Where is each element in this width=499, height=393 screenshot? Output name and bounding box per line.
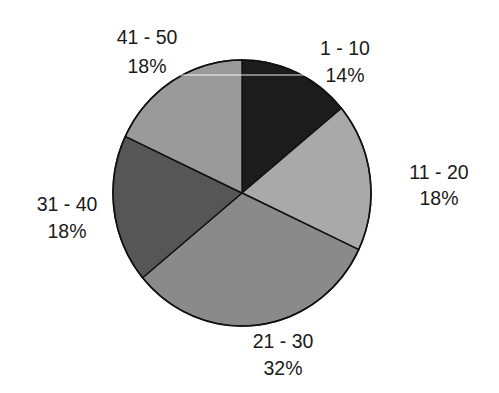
slice-percent-label: 32% bbox=[263, 357, 302, 379]
slice-category-label: 21 - 30 bbox=[253, 330, 314, 352]
slice-category-label: 31 - 40 bbox=[37, 193, 98, 215]
slice-category-label: 11 - 20 bbox=[409, 161, 468, 183]
slice-percent-label: 18% bbox=[127, 55, 166, 77]
pie-chart-canvas: 1 - 1014%11 - 2018%21 - 3032%31 - 4018%4… bbox=[0, 0, 499, 393]
slice-percent-label: 18% bbox=[419, 187, 458, 209]
slice-category-label: 1 - 10 bbox=[320, 37, 370, 59]
slice-category-label: 41 - 50 bbox=[117, 26, 178, 48]
slice-percent-label: 14% bbox=[325, 64, 364, 86]
pie-chart: 1 - 1014%11 - 2018%21 - 3032%31 - 4018%4… bbox=[0, 0, 499, 393]
pie-slices bbox=[113, 60, 371, 326]
slice-percent-label: 18% bbox=[47, 220, 86, 242]
